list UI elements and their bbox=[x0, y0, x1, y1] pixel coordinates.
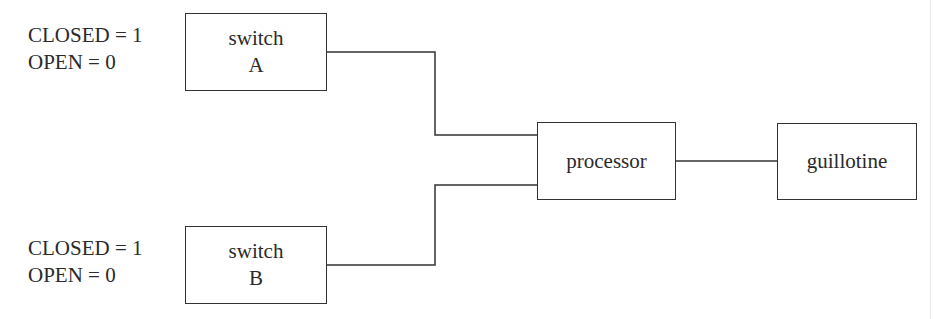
wire-switch-a-to-processor bbox=[327, 52, 537, 135]
closed-value-label: CLOSED = 1 bbox=[28, 22, 143, 49]
switch-a-legend: CLOSED = 1 OPEN = 0 bbox=[28, 22, 143, 76]
switch-b-legend: CLOSED = 1 OPEN = 0 bbox=[28, 235, 143, 289]
guillotine-box: guillotine bbox=[777, 123, 917, 200]
switch-a-box: switch A bbox=[185, 13, 327, 91]
open-value-label: OPEN = 0 bbox=[28, 262, 143, 289]
open-value-label: OPEN = 0 bbox=[28, 49, 143, 76]
switch-a-title: switch bbox=[229, 25, 284, 52]
switch-a-id: A bbox=[248, 52, 263, 79]
closed-value-label: CLOSED = 1 bbox=[28, 235, 143, 262]
guillotine-label: guillotine bbox=[807, 148, 888, 175]
switch-b-id: B bbox=[249, 265, 263, 292]
processor-box: processor bbox=[537, 122, 676, 200]
switch-b-title: switch bbox=[229, 238, 284, 265]
scan-edge-line bbox=[930, 0, 931, 319]
wire-switch-b-to-processor bbox=[327, 185, 537, 265]
processor-label: processor bbox=[566, 148, 646, 175]
switch-b-box: switch B bbox=[185, 226, 327, 304]
